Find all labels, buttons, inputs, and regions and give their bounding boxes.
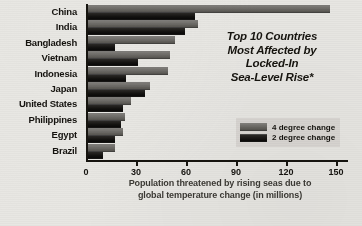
- x-axis-caption-line: Population threatened by rising seas due…: [86, 178, 354, 190]
- bar-2-degree: [88, 27, 185, 35]
- x-axis-tick-label: 0: [83, 167, 88, 177]
- x-axis-tick: [286, 160, 288, 166]
- legend-item: 4 degree change: [240, 123, 335, 132]
- bar-2-degree: [88, 12, 195, 20]
- y-axis-label: Philippines: [0, 112, 82, 127]
- chart-title-line: Sea-Level Rise*: [196, 71, 348, 85]
- x-axis-tick-label: 60: [181, 167, 191, 177]
- chart-title-line: Locked-In: [196, 57, 348, 71]
- y-axis-label: India: [0, 19, 82, 34]
- bar-2-degree: [88, 74, 126, 82]
- bar-2-degree: [88, 135, 115, 143]
- legend-swatch: [240, 134, 267, 142]
- y-axis-label: Bangladesh: [0, 35, 82, 50]
- y-axis-label: China: [0, 4, 82, 19]
- y-axis-label: Japan: [0, 81, 82, 96]
- y-axis-country-labels: ChinaIndiaBangladeshVietnamIndonesiaJapa…: [0, 4, 82, 158]
- chart-title-line: Most Affected by: [196, 44, 348, 58]
- bar-2-degree: [88, 89, 145, 97]
- y-axis-label: Vietnam: [0, 50, 82, 65]
- chart-legend: 4 degree change2 degree change: [236, 118, 340, 147]
- bar-2-degree: [88, 58, 138, 66]
- y-axis-label: Indonesia: [0, 66, 82, 81]
- bar-2-degree: [88, 43, 115, 51]
- x-axis-tick-label: 120: [278, 167, 293, 177]
- chart-title-line: Top 10 Countries: [196, 30, 348, 44]
- bar-2-degree: [88, 120, 121, 128]
- y-axis-label: United States: [0, 96, 82, 111]
- bar-2-degree: [88, 104, 123, 112]
- y-axis-label: Brazil: [0, 143, 82, 158]
- x-axis-tick-label: 30: [131, 167, 141, 177]
- sea-level-rise-bar-chart: ChinaIndiaBangladeshVietnamIndonesiaJapa…: [0, 0, 362, 226]
- x-axis-caption-line: global temperature change (in millions): [86, 190, 354, 202]
- x-axis-tick-label: 150: [328, 167, 343, 177]
- x-axis-tick: [336, 160, 338, 166]
- legend-label: 4 degree change: [272, 123, 335, 132]
- x-axis-tick-label: 90: [231, 167, 241, 177]
- x-axis-tick: [136, 160, 138, 166]
- chart-title: Top 10 CountriesMost Affected byLocked-I…: [196, 30, 348, 84]
- x-axis-tick: [236, 160, 238, 166]
- x-axis-caption: Population threatened by rising seas due…: [86, 178, 354, 201]
- legend-label: 2 degree change: [272, 133, 335, 142]
- legend-swatch: [240, 123, 267, 131]
- legend-item: 2 degree change: [240, 133, 335, 142]
- x-axis-line: [86, 160, 348, 162]
- y-axis-label: Egypt: [0, 127, 82, 142]
- x-axis-tick: [186, 160, 188, 166]
- bar-2-degree: [88, 151, 103, 159]
